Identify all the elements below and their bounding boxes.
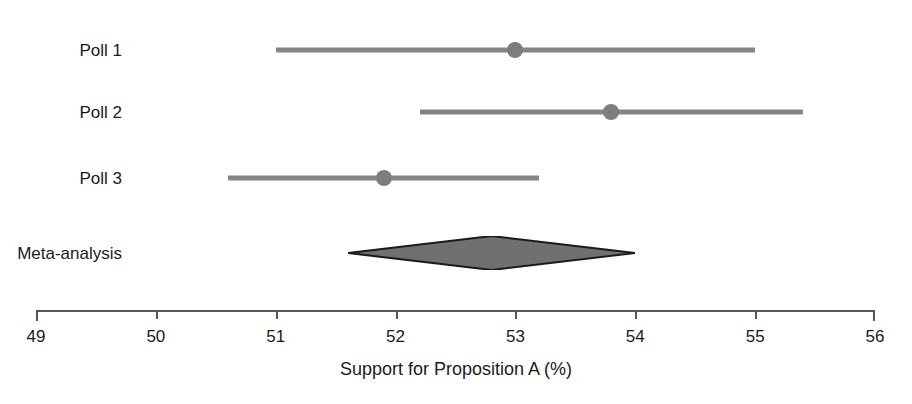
x-axis-tick: [276, 310, 278, 319]
summary-diamond: [348, 236, 636, 270]
estimate-marker: [603, 104, 619, 120]
study-label: Poll 3: [0, 170, 122, 187]
x-axis-tick-label: 54: [626, 328, 645, 345]
x-axis-tick-label: 55: [746, 328, 765, 345]
x-axis-tick: [156, 310, 158, 319]
x-axis-tick: [755, 310, 757, 319]
x-axis-tick: [515, 310, 517, 319]
x-axis-tick-label: 50: [146, 328, 165, 345]
study-label: Poll 1: [0, 42, 122, 59]
x-axis-tick-label: 52: [386, 328, 405, 345]
x-axis-tick: [873, 310, 875, 321]
study-label: Poll 2: [0, 104, 122, 121]
summary-label: Meta-analysis: [0, 245, 122, 262]
forest-plot: Poll 1Poll 2Poll 3Meta-analysis495051525…: [0, 0, 912, 404]
estimate-marker: [507, 42, 523, 58]
x-axis-tick-label: 53: [506, 328, 525, 345]
x-axis-title: Support for Proposition A (%): [0, 360, 912, 378]
x-axis-tick: [36, 310, 38, 321]
x-axis-tick-label: 51: [266, 328, 285, 345]
x-axis-tick-label: 56: [866, 328, 885, 345]
estimate-marker: [376, 170, 392, 186]
x-axis-tick-label: 49: [27, 328, 46, 345]
x-axis-tick: [635, 310, 637, 319]
x-axis-line: [36, 310, 875, 312]
x-axis-tick: [396, 310, 398, 319]
